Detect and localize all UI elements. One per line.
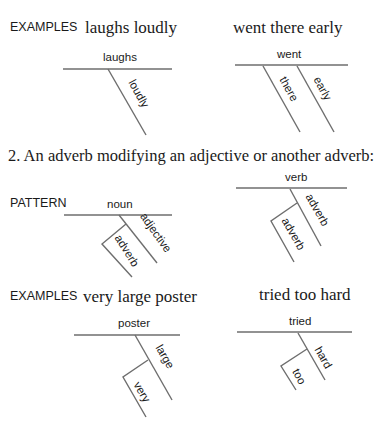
diagram-laughs-loudly bbox=[63, 69, 172, 135]
pattern-label: PATTERN bbox=[10, 197, 66, 210]
example-phrase: tried too hard bbox=[259, 286, 351, 303]
example-phrase: very large poster bbox=[83, 288, 197, 305]
head-word: laughs bbox=[103, 52, 137, 64]
examples-label: EXAMPLES bbox=[10, 290, 77, 303]
head-word: verb bbox=[285, 172, 307, 184]
head-word: went bbox=[277, 49, 301, 61]
example-phrase: laughs loudly bbox=[85, 19, 177, 36]
section-heading: 2. An adverb modifying an adjective or a… bbox=[8, 148, 374, 165]
head-word: noun bbox=[107, 199, 133, 211]
example-phrase: went there early bbox=[233, 19, 343, 36]
head-word: tried bbox=[289, 316, 311, 328]
examples-label: EXAMPLES bbox=[10, 21, 77, 34]
head-word: poster bbox=[118, 318, 150, 330]
